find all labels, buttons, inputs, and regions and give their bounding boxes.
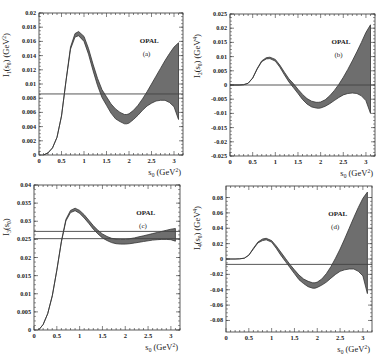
x-tick-label: 2.5	[339, 158, 348, 165]
y-tick-label: -0.02	[214, 138, 227, 145]
panel-label: (b)	[334, 51, 343, 59]
y-tick-label: 0.015	[213, 38, 227, 45]
x-tick-label: 1.5	[102, 157, 111, 164]
y-tick-label: -0.015	[211, 124, 227, 131]
chart-b-plot: 00.511.522.53-0.025-0.02-0.015-0.01-0.00…	[191, 0, 382, 178]
x-tick-label: 2.5	[144, 332, 153, 339]
x-tick-label: 0	[37, 157, 40, 164]
x-tick-label: 3	[361, 334, 365, 341]
y-tick-label: 0.02	[20, 254, 31, 261]
x-tick-label: 0.5	[249, 158, 258, 165]
y-tick-label: 0.04	[20, 181, 31, 188]
y-tick-label: 0.03	[20, 217, 31, 224]
chart-panel-b: 00.511.522.53-0.025-0.02-0.015-0.01-0.00…	[191, 0, 382, 182]
y-axis-label: I4(s0) (GeV4)	[192, 206, 203, 250]
y-tick-label: -0.04	[210, 286, 223, 293]
y-tick-label: 0.018	[22, 23, 36, 30]
y-tick-label: 0.01	[25, 80, 36, 87]
chart-panel-a: 00.511.522.5300.0020.0040.0060.0080.010.…	[0, 0, 191, 182]
y-tick-label: -0.01	[214, 109, 227, 116]
y-tick-label: 0.08	[212, 194, 223, 201]
x-tick-label: 2	[319, 158, 322, 165]
y-tick-label: 0.012	[22, 66, 36, 73]
x-tick-label: 2	[316, 334, 319, 341]
y-tick-label: 0.025	[213, 10, 227, 17]
y-tick-label: 0.014	[22, 52, 36, 59]
y-tick-label: -0.08	[210, 316, 223, 323]
panel-label: (a)	[143, 50, 151, 58]
y-tick-label: -0.02	[210, 270, 223, 277]
x-tick-label: 0	[224, 334, 227, 341]
x-tick-label: 1	[78, 332, 81, 339]
legend-opal: OPAL	[328, 210, 347, 218]
y-tick-label: 0.02	[212, 240, 223, 247]
x-tick-label: 0.5	[245, 334, 254, 341]
error-band	[39, 208, 176, 330]
x-tick-label: 0.5	[53, 332, 62, 339]
legend-opal: OPAL	[136, 209, 155, 217]
y-tick-label: 0.025	[17, 235, 31, 242]
chart-panel-c: 00.511.522.5300.0050.010.0150.020.0250.0…	[0, 178, 191, 356]
y-tick-label: 0.006	[22, 108, 36, 115]
y-tick-label: 0	[33, 151, 36, 158]
x-tick-label: 3	[169, 332, 173, 339]
error-band	[226, 192, 367, 294]
x-tick-label: 2.5	[336, 334, 345, 341]
chart-panel-d: 00.511.522.53-0.08-0.06-0.04-0.0200.020.…	[191, 178, 382, 356]
y-tick-label: 0.02	[25, 9, 36, 16]
y-tick-label: 0.008	[22, 94, 36, 101]
x-axis-label: s0 (GeV2)	[145, 342, 178, 353]
y-axis-label: I3(s0)	[1, 218, 12, 235]
y-tick-label: 0.01	[216, 53, 227, 60]
y-tick-label: 0.015	[17, 272, 31, 279]
error-band	[44, 32, 179, 156]
y-tick-label: -0.025	[211, 152, 227, 159]
y-tick-label: 0.04	[212, 224, 223, 231]
y-tick-label: 0	[224, 81, 227, 88]
y-tick-label: -0.005	[211, 95, 227, 102]
x-tick-label: 2.5	[147, 157, 156, 164]
y-tick-label: 0.016	[22, 37, 36, 44]
y-tick-label: -0.06	[210, 301, 223, 308]
y-tick-label: 0.02	[216, 24, 227, 31]
x-tick-label: 1.5	[294, 158, 303, 165]
x-axis-label: s0 (GeV2)	[340, 168, 373, 178]
x-tick-label: 2	[124, 332, 127, 339]
y-tick-label: 0.002	[22, 137, 36, 144]
chart-a-plot: 00.511.522.5300.0020.0040.0060.0080.010.…	[0, 0, 191, 178]
y-tick-label: 0	[28, 326, 31, 333]
x-tick-label: 0.5	[57, 157, 66, 164]
chart-d-plot: 00.511.522.53-0.08-0.06-0.04-0.0200.020.…	[191, 178, 382, 356]
x-tick-label: 0	[228, 158, 231, 165]
chart-c-plot: 00.511.522.5300.0050.010.0150.020.0250.0…	[0, 178, 191, 356]
y-tick-label: 0.01	[20, 290, 31, 297]
x-tick-label: 0	[32, 332, 35, 339]
x-tick-label: 1.5	[290, 334, 299, 341]
y-tick-label: 0.005	[17, 308, 31, 315]
x-tick-label: 1	[274, 158, 277, 165]
x-axis-label: s0 (GeV2)	[337, 344, 370, 355]
x-axis-label: s0 (GeV2)	[148, 167, 181, 178]
y-axis-label: I1(s0) (GeV2)	[1, 33, 12, 77]
plot-frame	[34, 185, 180, 330]
x-tick-label: 1	[82, 157, 85, 164]
panel-label: (d)	[331, 223, 340, 231]
y-tick-label: 0.035	[17, 199, 31, 206]
x-tick-label: 3	[364, 158, 368, 165]
y-tick-label: 0.06	[212, 209, 223, 216]
panel-label: (c)	[139, 222, 147, 230]
legend-opal: OPAL	[332, 38, 351, 46]
y-tick-label: 0	[220, 255, 223, 262]
y-tick-label: 0.005	[213, 67, 227, 74]
x-tick-label: 2	[127, 157, 130, 164]
x-tick-label: 3	[172, 157, 176, 164]
y-axis-label: I2(s0) (GeV4)	[192, 34, 203, 78]
legend-opal: OPAL	[140, 37, 159, 45]
y-tick-label: 0.004	[22, 123, 36, 130]
x-tick-label: 1	[270, 334, 273, 341]
x-tick-label: 1.5	[98, 332, 107, 339]
